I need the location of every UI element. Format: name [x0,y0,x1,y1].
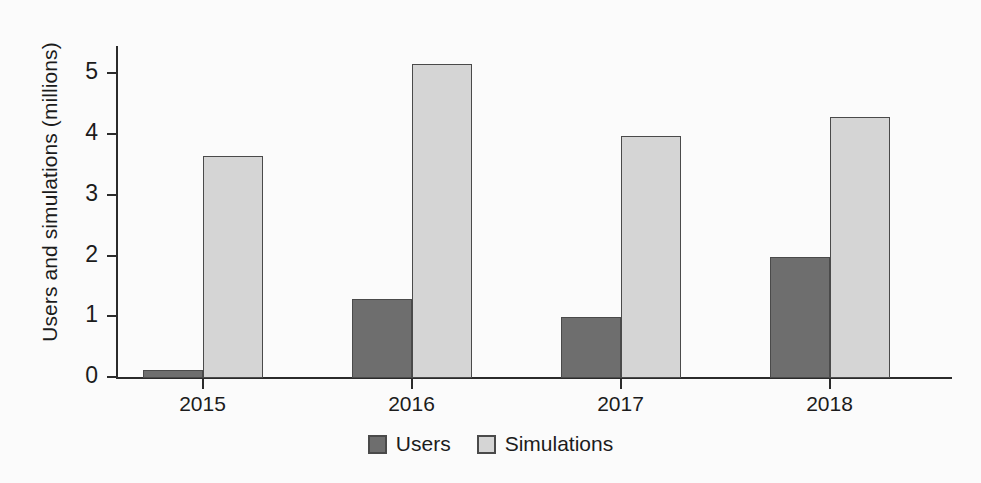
bar-2018-simulations [830,117,890,378]
x-tick-label: 2017 [561,392,681,416]
legend-label: Simulations [505,432,614,456]
legend-swatch-icon [368,435,387,454]
x-tick-mark [620,379,622,389]
bars-layer [0,46,981,378]
legend-swatch-icon [477,435,496,454]
legend-entry-simulations: Simulations [477,432,614,456]
bar-2015-simulations [203,156,263,378]
legend-label: Users [396,432,451,456]
legend-entry-users: Users [368,432,451,456]
bar-2017-simulations [621,136,681,378]
bar-2018-users [770,257,830,378]
x-tick-label: 2018 [770,392,890,416]
chart-legend: UsersSimulations [0,432,981,456]
x-tick-mark [829,379,831,389]
bar-2015-users [143,370,203,378]
bar-2016-users [352,299,412,378]
x-tick-label: 2016 [352,392,472,416]
bar-2016-simulations [412,64,472,378]
bar-2017-users [561,317,621,378]
x-tick-mark [411,379,413,389]
x-tick-label: 2015 [143,392,263,416]
x-tick-mark [202,379,204,389]
bar-chart-figure: Users and simulations (millions) 012345 … [0,0,981,483]
